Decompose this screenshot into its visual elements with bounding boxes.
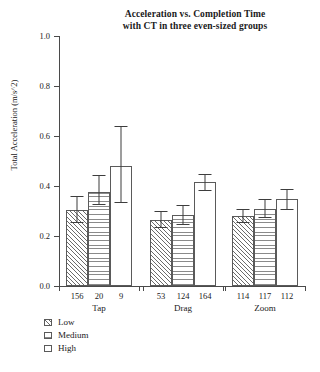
error-bar-zoom-medium xyxy=(254,36,276,286)
error-bar-line xyxy=(287,189,288,209)
error-bar-cap-upper xyxy=(237,209,250,210)
legend-label-high: High xyxy=(58,344,76,353)
error-bar-drag-high xyxy=(194,36,216,286)
error-bar-line xyxy=(205,174,206,190)
y-tick-label: 0.6 xyxy=(10,132,50,141)
x-group-label-zoom: Zoom xyxy=(230,303,300,314)
y-tick-label: 0.0 xyxy=(10,282,50,291)
error-bar-cap-upper xyxy=(199,174,212,175)
chart-title-line-2: with CT in three even-sized groups xyxy=(80,20,310,32)
error-bar-zoom-low xyxy=(232,36,254,286)
error-bar-line xyxy=(99,175,100,204)
error-bar-cap-upper xyxy=(71,196,84,197)
bar-count-label: 9 xyxy=(106,291,136,301)
x-tick-mark xyxy=(59,286,60,291)
y-axis-label: Total Acceleration (m/s^2) xyxy=(9,25,19,225)
y-tick-label: 0.4 xyxy=(10,182,50,191)
error-bar-cap-lower xyxy=(155,227,168,228)
y-tick-label: 1.0 xyxy=(10,32,50,41)
error-bar-cap-upper xyxy=(177,205,190,206)
x-tick-mark xyxy=(139,286,140,291)
legend-item-low: Low xyxy=(44,316,89,329)
error-bar-cap-upper xyxy=(281,189,294,190)
chart-title-line-1: Acceleration vs. Completion Time xyxy=(80,8,310,20)
error-bar-cap-lower xyxy=(281,209,294,210)
plot-area xyxy=(60,36,305,286)
error-bar-cap-lower xyxy=(115,202,128,203)
x-axis-line xyxy=(59,286,305,287)
error-bar-line xyxy=(243,209,244,223)
legend-swatch-medium-icon xyxy=(44,332,52,339)
error-bar-zoom-high xyxy=(276,36,298,286)
chart-legend: Low Medium High xyxy=(44,316,89,355)
error-bar-tap-high xyxy=(110,36,132,286)
error-bar-drag-low xyxy=(150,36,172,286)
legend-item-medium: Medium xyxy=(44,329,89,342)
error-bar-cap-lower xyxy=(199,190,212,191)
error-bar-line xyxy=(77,196,78,222)
x-tick-mark xyxy=(223,286,224,291)
error-bar-drag-medium xyxy=(172,36,194,286)
legend-label-medium: Medium xyxy=(58,331,89,340)
error-bar-cap-upper xyxy=(93,175,106,176)
y-tick-label: 0.2 xyxy=(10,232,50,241)
error-bar-cap-upper xyxy=(155,211,168,212)
legend-item-high: High xyxy=(44,342,89,355)
bar-count-label: 164 xyxy=(190,291,220,301)
x-group-label-drag: Drag xyxy=(148,303,218,314)
error-bar-line xyxy=(265,199,266,218)
error-bar-cap-lower xyxy=(93,204,106,205)
legend-swatch-high-icon xyxy=(44,345,52,352)
x-group-label-tap: Tap xyxy=(64,303,134,314)
x-tick-mark xyxy=(305,286,306,291)
y-tick-label: 0.8 xyxy=(10,82,50,91)
x-tick-mark xyxy=(225,286,226,291)
error-bar-cap-lower xyxy=(71,222,84,223)
error-bar-line xyxy=(161,211,162,227)
chart-figure: Acceleration vs. Completion Time with CT… xyxy=(0,0,320,372)
legend-swatch-low-icon xyxy=(44,319,52,326)
error-bar-cap-lower xyxy=(237,222,250,223)
error-bar-tap-low xyxy=(66,36,88,286)
error-bar-tap-medium xyxy=(88,36,110,286)
legend-label-low: Low xyxy=(58,318,75,327)
x-tick-mark xyxy=(143,286,144,291)
chart-title: Acceleration vs. Completion Time with CT… xyxy=(80,8,310,32)
error-bar-line xyxy=(183,205,184,224)
error-bar-cap-upper xyxy=(115,126,128,127)
error-bar-line xyxy=(121,126,122,202)
error-bar-cap-lower xyxy=(259,217,272,218)
error-bar-cap-upper xyxy=(259,199,272,200)
bar-count-label: 112 xyxy=(272,291,302,301)
error-bar-cap-lower xyxy=(177,224,190,225)
